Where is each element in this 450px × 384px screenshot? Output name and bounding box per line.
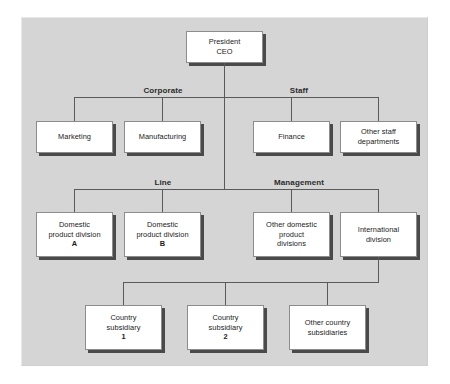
node-other-domestic-line1: Other domestic	[266, 220, 317, 230]
connector-drop-other-domestic	[291, 189, 292, 212]
node-other-domestic-line3: divisions	[266, 239, 317, 249]
connector-bus-level2	[74, 97, 379, 98]
connector-spine-mid	[224, 97, 225, 189]
connector-spine-ceo	[224, 63, 225, 97]
node-other-country-subsidiaries[interactable]: Other country subsidiaries	[289, 305, 366, 350]
connector-drop-international	[378, 189, 379, 212]
caption-corporate: Corporate	[128, 86, 198, 95]
org-chart-panel: President CEO Corporate Staff Marketing …	[21, 17, 428, 366]
node-other-country-line1: Other country	[305, 318, 350, 328]
node-president-ceo-line2: CEO	[209, 47, 241, 57]
node-domestic-a-line2: product division	[48, 230, 100, 240]
connector-drop-country-2	[225, 282, 226, 305]
caption-management: Management	[264, 178, 334, 187]
node-domestic-product-division-a[interactable]: Domestic product division A	[36, 212, 113, 257]
node-domestic-a-line1: Domestic	[48, 220, 100, 230]
node-international-line2: division	[358, 235, 399, 245]
node-country-1-line2: subsidiary	[107, 323, 141, 333]
node-country-2-number: 2	[209, 332, 243, 342]
node-country-2-line1: Country	[209, 313, 243, 323]
node-country-1-line1: Country	[107, 313, 141, 323]
node-country-subsidiary-1[interactable]: Country subsidiary 1	[85, 305, 162, 350]
connector-drop-domestic-b	[162, 189, 163, 212]
node-country-subsidiary-2[interactable]: Country subsidiary 2	[187, 305, 264, 350]
node-manufacturing[interactable]: Manufacturing	[124, 121, 201, 153]
connector-drop-from-international	[378, 257, 379, 283]
connector-drop-country-1	[123, 282, 124, 305]
connector-drop-other-country	[327, 282, 328, 305]
node-other-staff-line1: Other staff	[358, 127, 400, 137]
caption-staff: Staff	[264, 86, 334, 95]
node-domestic-b-line2: product division	[136, 230, 188, 240]
caption-line: Line	[128, 178, 198, 187]
node-country-1-number: 1	[107, 332, 141, 342]
node-domestic-product-division-b[interactable]: Domestic product division B	[124, 212, 201, 257]
node-domestic-a-letter: A	[48, 239, 100, 249]
node-other-domestic-product-divisions[interactable]: Other domestic product divisions	[253, 212, 330, 257]
node-manufacturing-label: Manufacturing	[139, 132, 186, 142]
node-country-2-line2: subsidiary	[209, 323, 243, 333]
node-international-line1: International	[358, 225, 399, 235]
node-other-domestic-line2: product	[266, 230, 317, 240]
node-president-ceo[interactable]: President CEO	[186, 31, 263, 63]
connector-bus-level4	[123, 282, 379, 283]
node-marketing-label: Marketing	[58, 132, 91, 142]
node-other-country-line2: subsidiaries	[305, 328, 350, 338]
connector-drop-finance	[291, 97, 292, 121]
connector-drop-other-staff	[378, 97, 379, 121]
node-finance[interactable]: Finance	[253, 121, 330, 153]
connector-bus-level3	[74, 189, 379, 190]
node-president-ceo-line1: President	[209, 37, 241, 47]
node-domestic-b-line1: Domestic	[136, 220, 188, 230]
node-other-staff-departments[interactable]: Other staff departments	[340, 121, 417, 153]
node-domestic-b-letter: B	[136, 239, 188, 249]
connector-drop-manufacturing	[162, 97, 163, 121]
connector-drop-domestic-a	[74, 189, 75, 212]
node-marketing[interactable]: Marketing	[36, 121, 113, 153]
node-finance-label: Finance	[278, 132, 305, 142]
node-international-division[interactable]: International division	[340, 212, 417, 257]
node-other-staff-line2: departments	[358, 137, 400, 147]
connector-drop-marketing	[74, 97, 75, 121]
